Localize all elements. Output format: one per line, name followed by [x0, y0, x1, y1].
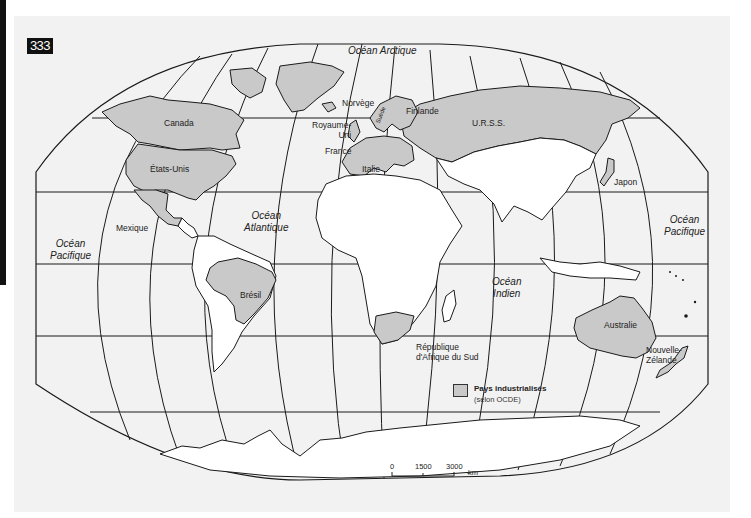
country-label-italy: Italie — [362, 164, 380, 174]
country-label-norway: Norvège — [342, 98, 374, 108]
country-label-japan: Japon — [614, 177, 637, 187]
country-label-usa: États-Unis — [150, 164, 189, 174]
ocean-label-indian-line2: Indien — [492, 288, 521, 300]
ocean-label-pacific-west-line2: Pacifique — [50, 250, 91, 262]
country-label-south-africa-line1: République — [416, 342, 479, 352]
page-number-badge: 333 — [27, 38, 53, 54]
ocean-label-pacific-east-line2: Pacifique — [664, 226, 705, 238]
ocean-label-pacific-west-line1: Océan — [50, 238, 91, 250]
country-label-mexico: Mexique — [116, 223, 148, 233]
ocean-label-atlantic-line1: Océan — [244, 210, 288, 222]
scale-tick-0: 0 — [390, 462, 394, 471]
ocean-label-indian: Océan Indien — [492, 276, 521, 300]
scale-tick-1500: 1500 — [415, 462, 432, 471]
country-label-new-zealand-line1: Nouvelle- — [646, 345, 682, 355]
country-label-south-africa-line2: d'Afrique du Sud — [416, 352, 479, 362]
country-label-australia: Australie — [604, 320, 637, 330]
country-label-uk-line2: Uni — [312, 130, 351, 140]
country-label-finland: Finlande — [406, 106, 439, 116]
legend-sublabel: (selon OCDE) — [474, 395, 521, 405]
country-label-uk: Royaume- Uni — [312, 120, 351, 140]
legend-label: Pays industrialisés — [474, 384, 546, 394]
world-map — [0, 0, 751, 518]
scale-tick-3000: 3000 — [446, 462, 463, 471]
country-label-france: France — [325, 146, 351, 156]
scale-bar: 0 1500 3000 km — [390, 462, 530, 482]
country-label-ussr: U.R.S.S. — [472, 118, 505, 128]
scale-unit: km — [468, 468, 478, 477]
legend-swatch-industrialized — [453, 384, 468, 397]
country-label-uk-line1: Royaume- — [312, 120, 351, 130]
ocean-label-arctic: Océan Arctique — [348, 45, 417, 57]
country-label-canada: Canada — [164, 118, 194, 128]
country-label-brazil: Brésil — [240, 290, 261, 300]
ocean-label-pacific-west: Océan Pacifique — [50, 238, 91, 262]
ocean-label-pacific-east: Océan Pacifique — [664, 214, 705, 238]
ocean-label-atlantic: Océan Atlantique — [244, 210, 288, 234]
country-label-new-zealand: Nouvelle- Zélande — [646, 345, 682, 365]
ocean-label-pacific-east-line1: Océan — [664, 214, 705, 226]
ocean-label-indian-line1: Océan — [492, 276, 521, 288]
ocean-label-atlantic-line2: Atlantique — [244, 222, 288, 234]
country-label-new-zealand-line2: Zélande — [646, 355, 682, 365]
country-label-south-africa: République d'Afrique du Sud — [416, 342, 479, 362]
